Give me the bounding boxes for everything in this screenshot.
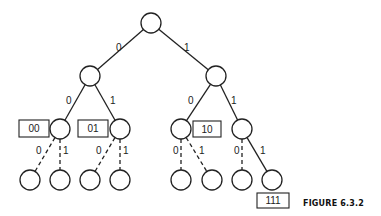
edge-label: 0 [173, 145, 179, 156]
codeword-text: 111 [265, 195, 281, 206]
tree-node-n0 [80, 66, 100, 86]
edge-label: 1 [260, 145, 266, 156]
edge-label: 1 [184, 42, 190, 53]
tree-diagram: 01010101010101 000110111 FIGURE 6.3.2 [0, 0, 381, 216]
tree-nodes [20, 13, 282, 190]
figure-caption: FIGURE 6.3.2 [303, 199, 364, 208]
edge-label: 0 [116, 42, 122, 53]
tree-node-n11 [232, 119, 252, 139]
tree-node-n10 [171, 119, 191, 139]
codeword-text: 00 [28, 123, 40, 134]
tree-node-root [141, 13, 161, 33]
tree-node-n1 [206, 66, 226, 86]
tree-node-n101 [202, 170, 222, 190]
edge-label: 1 [63, 145, 69, 156]
edge-label: 1 [123, 145, 129, 156]
edge-label: 1 [110, 95, 116, 106]
binary-tree-figure: 01010101010101 000110111 FIGURE 6.3.2 [0, 0, 381, 216]
tree-node-n000 [20, 170, 40, 190]
edge-label: 1 [199, 145, 205, 156]
codeword-box: 111 [257, 193, 289, 208]
codeword-box: 10 [193, 121, 221, 137]
codeword-text: 01 [87, 123, 99, 134]
edge-label: 0 [66, 95, 72, 106]
edge-labels: 01010101010101 [36, 42, 266, 156]
codeword-text: 10 [201, 124, 213, 135]
edge-label: 0 [96, 145, 102, 156]
tree-node-n100 [171, 170, 191, 190]
tree-node-n110 [232, 170, 252, 190]
tree-node-n001 [50, 170, 70, 190]
edge-label: 0 [234, 145, 240, 156]
tree-node-n01 [110, 119, 130, 139]
tree-node-n011 [110, 170, 130, 190]
tree-node-n00 [50, 119, 70, 139]
edge-label: 0 [188, 95, 194, 106]
tree-node-n111 [262, 170, 282, 190]
codeword-box: 01 [78, 120, 108, 137]
edge-label: 1 [231, 95, 237, 106]
edge-label: 0 [36, 145, 42, 156]
tree-node-n010 [80, 170, 100, 190]
codeword-box: 00 [19, 120, 49, 137]
